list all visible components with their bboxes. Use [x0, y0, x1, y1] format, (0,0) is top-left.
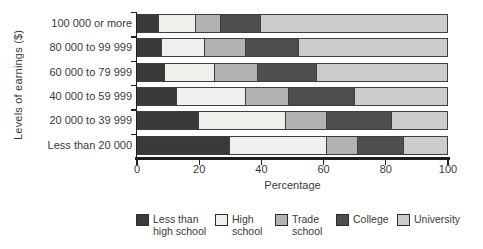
y-axis-tick — [131, 61, 136, 62]
legend-item-high-school: High school — [215, 213, 262, 237]
bar-segment-less-than-high-school — [137, 111, 199, 130]
legend-swatch — [397, 214, 410, 226]
bar-segment-university — [261, 14, 448, 33]
x-axis-title: Percentage — [137, 179, 448, 191]
legend-label: University — [414, 213, 460, 225]
category-label: Less than 20 000 — [48, 136, 132, 155]
bar-segment-high-school — [199, 111, 286, 130]
bar-segment-high-school — [230, 136, 326, 155]
bar-segment-less-than-high-school — [137, 38, 162, 57]
legend-item-less-than-high-school: Less than high school — [136, 213, 206, 237]
legend-label: High school — [232, 213, 262, 237]
bar-segment-trade-school — [196, 14, 221, 33]
x-axis-tick-label: 20 — [182, 163, 216, 175]
stacked-bar-chart-figure: Levels of earnings ($) Percentage Less t… — [0, 0, 483, 249]
bar-segment-trade-school — [246, 87, 290, 106]
x-axis-tick-label: 60 — [307, 163, 341, 175]
category-label: 60 000 to 79 999 — [49, 63, 132, 82]
bar-segment-trade-school — [205, 38, 245, 57]
legend-label: College — [353, 213, 389, 225]
y-axis-tick — [131, 85, 136, 86]
category-label: 100 000 or more — [51, 14, 132, 33]
legend-swatch — [336, 214, 349, 226]
bar-segment-college — [289, 87, 354, 106]
bar-segment-trade-school — [286, 111, 326, 130]
x-axis-tick-label: 80 — [369, 163, 403, 175]
legend-item-college: College — [336, 213, 389, 226]
legend: Less than high schoolHigh schoolTrade sc… — [0, 211, 483, 245]
bar-segment-university — [299, 38, 448, 57]
y-axis-tick — [131, 109, 136, 110]
bar-segment-high-school — [177, 87, 245, 106]
bar-row-20-000-to-39-999 — [137, 111, 448, 130]
bar-segment-less-than-high-school — [137, 136, 230, 155]
bar-segment-college — [246, 38, 299, 57]
y-axis-title: Levels of earnings ($) — [12, 12, 24, 158]
x-axis-tick-label: 0 — [120, 163, 154, 175]
bar-row-60-000-to-79-999 — [137, 63, 448, 82]
bar-segment-college — [258, 63, 317, 82]
legend-swatch — [215, 214, 228, 226]
x-axis-tick-label: 40 — [244, 163, 278, 175]
bar-segment-college — [221, 14, 261, 33]
bar-row-100-000-or-more — [137, 14, 448, 33]
legend-label: Trade school — [292, 213, 322, 237]
y-axis-tick — [131, 36, 136, 37]
bar-segment-university — [404, 136, 448, 155]
bar-segment-trade-school — [327, 136, 358, 155]
category-label: 20 000 to 39 999 — [49, 111, 132, 130]
legend-swatch — [275, 214, 288, 226]
y-axis-tick — [131, 134, 136, 135]
plot-area — [137, 12, 448, 158]
category-label: 80 000 to 99 999 — [49, 38, 132, 57]
bar-segment-high-school — [165, 63, 215, 82]
bar-segment-university — [392, 111, 448, 130]
legend-item-trade-school: Trade school — [275, 213, 322, 237]
bar-segment-trade-school — [215, 63, 259, 82]
bar-segment-college — [358, 136, 405, 155]
bar-segment-less-than-high-school — [137, 14, 159, 33]
legend-swatch — [136, 214, 149, 226]
bar-row-40-000-to-59-999 — [137, 87, 448, 106]
bar-segment-university — [355, 87, 448, 106]
category-label: 40 000 to 59 999 — [49, 87, 132, 106]
bar-segment-high-school — [162, 38, 206, 57]
legend-label: Less than high school — [153, 213, 206, 237]
bar-segment-less-than-high-school — [137, 87, 177, 106]
legend-item-university: University — [397, 213, 460, 226]
bar-segment-less-than-high-school — [137, 63, 165, 82]
bar-segment-college — [327, 111, 392, 130]
bar-row-less-than-20-000 — [137, 136, 448, 155]
bar-row-80-000-to-99-999 — [137, 38, 448, 57]
y-axis-tick — [131, 12, 136, 13]
x-axis-tick-label: 100 — [431, 163, 465, 175]
bar-segment-university — [317, 63, 448, 82]
bar-segment-high-school — [159, 14, 196, 33]
